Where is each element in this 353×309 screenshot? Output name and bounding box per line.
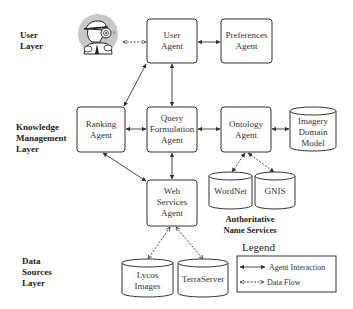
node-preferences-agent: Preferences Agent bbox=[221, 19, 272, 63]
group-label-name-services: Authoritative Name Services bbox=[223, 214, 277, 235]
legend-item-label: Data Flow bbox=[267, 278, 301, 287]
node-label: Preferences bbox=[226, 30, 268, 40]
node-gnis: GNIS bbox=[255, 172, 295, 209]
node-label: Services bbox=[157, 197, 188, 207]
node-user-agent: User Agent bbox=[147, 19, 197, 63]
node-label: Web bbox=[164, 186, 181, 196]
node-ontology-agent: Ontology Agent bbox=[221, 107, 271, 152]
node-label: Formulation bbox=[150, 124, 195, 134]
node-wordnet: WordNet bbox=[209, 172, 252, 209]
edge-user-agent-to-ranking bbox=[124, 64, 146, 106]
node-web-services-agent: Web Services Agent bbox=[147, 180, 197, 226]
edge-web-services-to-ranking bbox=[103, 153, 146, 181]
node-label: WordNet bbox=[214, 186, 247, 196]
node-label: User bbox=[164, 30, 181, 40]
node-ranking-agent: Ranking Agent bbox=[77, 107, 125, 152]
node-label: Agent bbox=[90, 130, 112, 140]
node-label: Ontology bbox=[229, 119, 264, 129]
legend-item-label: Agent Interaction bbox=[269, 263, 325, 272]
svg-text:ε: ε bbox=[113, 29, 116, 35]
node-lycos-images: Lycos Images bbox=[122, 259, 173, 297]
node-label: Imagery bbox=[298, 116, 328, 126]
edge-ontology-to-wordnet bbox=[232, 153, 245, 172]
node-imagery-domain-model: Imagery Domain Model bbox=[290, 107, 336, 151]
node-label: TerraServer bbox=[182, 274, 224, 284]
group-label-line: Name Services bbox=[223, 225, 277, 235]
legend-title: Legend bbox=[242, 241, 275, 253]
node-label: Domain bbox=[299, 127, 328, 137]
node-label: Lycos bbox=[137, 270, 159, 280]
node-label: Ranking bbox=[86, 119, 117, 129]
node-label: Query bbox=[161, 113, 184, 123]
node-label: GNIS bbox=[264, 186, 285, 196]
node-label: Agent bbox=[235, 130, 257, 140]
node-label: Model bbox=[301, 138, 325, 148]
architecture-diagram: ε User Agent Preferences Agent Ranking A… bbox=[0, 0, 353, 309]
node-label: Images bbox=[135, 281, 161, 291]
edge-web-services-to-lycos bbox=[148, 227, 170, 259]
node-label: Agent bbox=[161, 135, 183, 145]
node-query-formulation-agent: Query Formulation Agent bbox=[147, 107, 197, 152]
node-label: Agent bbox=[236, 41, 258, 51]
node-label: Agent bbox=[161, 41, 183, 51]
edge-ontology-to-gnis bbox=[248, 153, 274, 172]
edge-web-services-to-terraserver bbox=[176, 227, 203, 259]
group-label-line: Authoritative bbox=[225, 214, 274, 224]
node-label: Agent bbox=[161, 208, 183, 218]
node-terraserver: TerraServer bbox=[178, 259, 228, 297]
detective-icon: ε bbox=[78, 14, 118, 54]
legend: Legend Agent Interaction Data Flow bbox=[237, 241, 336, 292]
